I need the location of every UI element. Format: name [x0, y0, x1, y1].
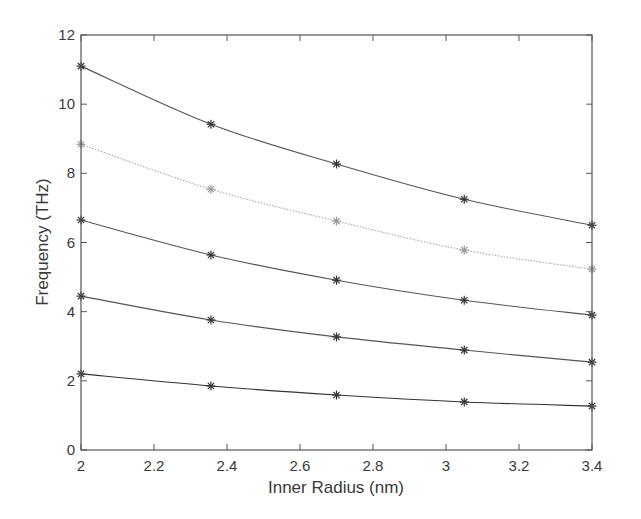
axes: [81, 35, 592, 450]
series-mode-1: [77, 369, 597, 410]
asterisk-marker-icon: [206, 120, 215, 129]
asterisk-marker-icon: [332, 217, 341, 226]
x-tick-label: 2: [77, 457, 85, 474]
y-axis-label: Frequency (THz): [33, 178, 52, 306]
y-tick-label: 4: [67, 303, 75, 320]
asterisk-marker-icon: [332, 276, 341, 285]
x-tick-label: 2.4: [217, 457, 238, 474]
asterisk-marker-icon: [460, 397, 469, 406]
y-axis-ticks: 024681012: [58, 26, 592, 458]
x-tick-label: 3: [442, 457, 450, 474]
asterisk-marker-icon: [460, 246, 469, 255]
asterisk-marker-icon: [332, 159, 341, 168]
y-tick-label: 0: [67, 441, 75, 458]
series-mode-3: [77, 216, 597, 320]
x-tick-label: 3.2: [509, 457, 530, 474]
x-tick-label: 2.6: [290, 457, 311, 474]
frequency-vs-radius-chart: 22.22.42.62.833.23.4 024681012 Inner Rad…: [0, 0, 641, 519]
asterisk-marker-icon: [460, 296, 469, 305]
y-tick-label: 6: [67, 234, 75, 251]
x-tick-label: 2.2: [144, 457, 165, 474]
series-line: [81, 374, 592, 406]
series-mode-2: [77, 292, 597, 367]
y-tick-label: 8: [67, 164, 75, 181]
asterisk-marker-icon: [332, 332, 341, 341]
x-axis-label: Inner Radius (nm): [268, 478, 404, 497]
asterisk-marker-icon: [206, 185, 215, 194]
y-tick-label: 12: [58, 26, 75, 43]
asterisk-marker-icon: [460, 346, 469, 355]
y-tick-label: 10: [58, 95, 75, 112]
y-tick-label: 2: [67, 372, 75, 389]
series-layer: [77, 62, 597, 411]
asterisk-marker-icon: [206, 382, 215, 391]
asterisk-marker-icon: [206, 250, 215, 259]
x-tick-label: 2.8: [363, 457, 384, 474]
series-line: [81, 220, 592, 315]
x-tick-label: 3.4: [582, 457, 603, 474]
axes-box: [81, 35, 592, 450]
series-mode-5: [77, 62, 597, 230]
series-line: [81, 66, 592, 225]
asterisk-marker-icon: [332, 391, 341, 400]
asterisk-marker-icon: [206, 315, 215, 324]
asterisk-marker-icon: [460, 195, 469, 204]
